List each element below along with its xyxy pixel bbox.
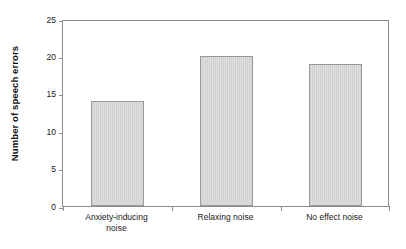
bar — [200, 56, 253, 206]
x-tick-label: Relaxing noise — [171, 212, 280, 223]
y-tick-mark — [59, 95, 63, 96]
y-tick-label: 10 — [26, 128, 56, 137]
x-tick-mark — [389, 206, 390, 211]
y-axis-tick-labels: 0510152025 — [26, 0, 56, 249]
x-tick-label-line: noise — [62, 223, 171, 234]
y-axis-title: Number of speech errors — [6, 0, 24, 207]
bar — [91, 101, 144, 206]
x-tick-label-line: Anxiety-inducing — [85, 212, 147, 222]
x-tick-mark — [63, 206, 64, 211]
y-tick-label: 20 — [26, 53, 56, 62]
y-tick-label: 0 — [26, 203, 56, 212]
bar — [309, 64, 362, 206]
x-tick-label-line: No effect noise — [306, 212, 363, 222]
x-tick-mark — [172, 206, 173, 211]
x-tick-mark — [281, 206, 282, 211]
x-tick-label-line: Relaxing noise — [198, 212, 254, 222]
plot-area — [62, 20, 389, 207]
y-tick-label: 15 — [26, 90, 56, 99]
y-tick-mark — [59, 170, 63, 171]
bars-layer — [63, 21, 388, 206]
y-tick-mark — [59, 21, 63, 22]
y-tick-mark — [59, 133, 63, 134]
y-tick-mark — [59, 58, 63, 59]
bar-chart: Number of speech errors 0510152025 Anxie… — [0, 0, 406, 249]
y-axis-title-text: Number of speech errors — [10, 46, 21, 161]
x-tick-label: Anxiety-inducingnoise — [62, 212, 171, 234]
y-tick-label: 5 — [26, 165, 56, 174]
x-axis-category-labels: Anxiety-inducingnoiseRelaxing noiseNo ef… — [62, 212, 389, 248]
y-tick-label: 25 — [26, 16, 56, 25]
x-tick-label: No effect noise — [280, 212, 389, 223]
